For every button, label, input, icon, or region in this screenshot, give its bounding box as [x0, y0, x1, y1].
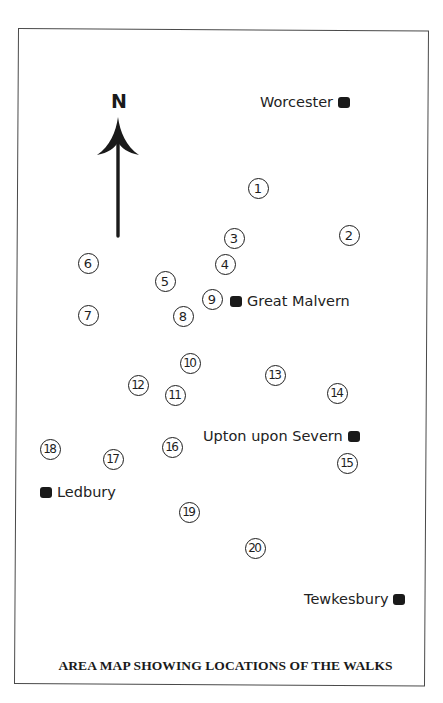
walk-marker-6[interactable]: 6 — [78, 253, 99, 274]
walk-marker-13[interactable]: 13 — [265, 365, 286, 386]
walk-marker-14[interactable]: 14 — [327, 383, 348, 404]
walk-number: 6 — [84, 257, 92, 270]
walk-number: 14 — [330, 387, 342, 399]
walk-marker-5[interactable]: 5 — [155, 271, 176, 292]
walk-marker-9[interactable]: 9 — [202, 289, 223, 310]
walk-marker-10[interactable]: 10 — [180, 353, 201, 374]
walk-marker-11[interactable]: 11 — [165, 385, 186, 406]
walk-marker-1[interactable]: 1 — [248, 178, 269, 199]
walk-number: 9 — [208, 293, 216, 306]
walk-number: 3 — [230, 232, 238, 245]
walk-marker-4[interactable]: 4 — [215, 254, 236, 275]
walk-number: 10 — [183, 357, 195, 369]
walk-marker-17[interactable]: 17 — [103, 449, 124, 470]
walk-marker-8[interactable]: 8 — [173, 306, 194, 327]
walk-number: 16 — [165, 441, 177, 453]
walk-number: 7 — [84, 309, 92, 322]
walk-number: 8 — [179, 310, 187, 323]
walk-number: 20 — [248, 542, 260, 554]
walk-number: 1 — [254, 182, 262, 195]
walk-marker-7[interactable]: 7 — [78, 305, 99, 326]
walk-number: 2 — [345, 229, 353, 242]
walk-number: 15 — [340, 457, 352, 469]
walk-marker-2[interactable]: 2 — [339, 225, 360, 246]
walk-number: 12 — [131, 379, 143, 391]
walk-marker-20[interactable]: 20 — [245, 538, 266, 559]
walk-marker-3[interactable]: 3 — [224, 228, 245, 249]
walk-marker-19[interactable]: 19 — [179, 502, 200, 523]
walk-marker-18[interactable]: 18 — [40, 439, 61, 460]
walk-marker-16[interactable]: 16 — [162, 437, 183, 458]
walk-number: 13 — [268, 369, 280, 381]
walk-number: 19 — [182, 506, 194, 518]
walk-number: 5 — [161, 275, 169, 288]
walk-marker-12[interactable]: 12 — [128, 375, 149, 396]
walk-number: 11 — [168, 389, 180, 401]
walk-number: 17 — [106, 453, 118, 465]
walk-number: 4 — [221, 258, 229, 271]
walks-layer: 1234567891011121314151617181920 — [0, 0, 443, 703]
walk-marker-15[interactable]: 15 — [337, 453, 358, 474]
map-caption: AREA MAP SHOWING LOCATIONS OF THE WALKS — [20, 658, 431, 674]
walk-number: 18 — [43, 443, 55, 455]
